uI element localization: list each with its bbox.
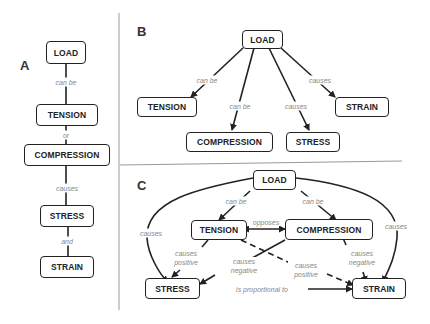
panel-a-link-or: or xyxy=(63,131,69,140)
panel-a-node-load: LOAD xyxy=(46,41,86,64)
panel-a-link-and: and xyxy=(61,237,73,246)
panel-c-node-compression: COMPRESSION xyxy=(285,219,373,240)
panel-a-link-can-be: can be xyxy=(55,78,76,87)
panel-b-node-load: LOAD xyxy=(242,30,283,49)
panel-c-link-compression-stress: causes negative xyxy=(226,257,262,275)
panel-c-node-strain: STRAIN xyxy=(352,278,406,299)
panel-a-node-strain: STRAIN xyxy=(40,256,94,278)
panel-c-node-stress: STRESS xyxy=(145,278,200,299)
panel-c-link-compression-strain: causes negative xyxy=(343,249,381,267)
panel-c-link-tension-stress: causes positive xyxy=(169,249,203,267)
panel-a-node-compression: COMPRESSION xyxy=(24,144,110,166)
panel-b-node-tension: TENSION xyxy=(137,97,197,117)
panel-a-node-stress: STRESS xyxy=(40,205,94,227)
panel-c-link-stress-strain: is proportional to xyxy=(236,285,288,294)
panel-c-node-load: LOAD xyxy=(253,170,296,190)
panel-a-node-tension: TENSION xyxy=(36,104,98,126)
panel-b-link-load-stress: causes xyxy=(285,102,307,111)
panel-b-link-load-compression: can be xyxy=(229,102,250,111)
panel-b-link-load-strain: causes xyxy=(309,76,331,85)
panel-c-letter: C xyxy=(137,178,146,193)
panel-b-letter: B xyxy=(137,24,146,39)
panel-a-letter: A xyxy=(20,58,29,73)
panel-c-link-load-compression: can be xyxy=(302,197,323,206)
panel-b-link-load-tension: can be xyxy=(196,76,217,85)
panel-c-node-tension: TENSION xyxy=(191,220,247,240)
horizontal-divider xyxy=(120,161,402,165)
panel-c-link-load-strain: causes xyxy=(385,222,407,231)
panel-b-node-compression: COMPRESSION xyxy=(186,132,273,152)
panel-c-link-load-stress: causes xyxy=(140,229,162,238)
panel-b-node-stress: STRESS xyxy=(286,132,340,152)
panel-a-link-causes: causes xyxy=(56,184,78,193)
panel-c-link-tension-compression: opposes xyxy=(253,218,279,227)
panel-b-node-strain: STRAIN xyxy=(335,97,389,117)
panel-c-link-load-tension: can be xyxy=(225,197,246,206)
panel-c-link-tension-strain: causes positive xyxy=(288,261,324,279)
